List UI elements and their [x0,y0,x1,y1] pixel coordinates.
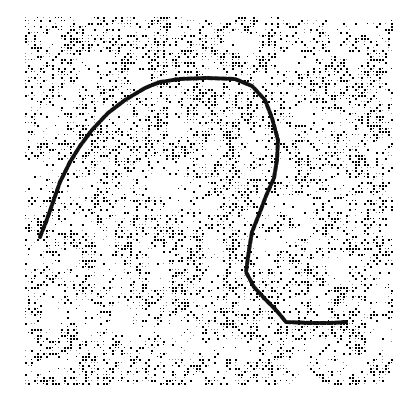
noise-texture [0,0,419,405]
image-stage: Dithered noise stipple texture square wi… [0,0,419,405]
